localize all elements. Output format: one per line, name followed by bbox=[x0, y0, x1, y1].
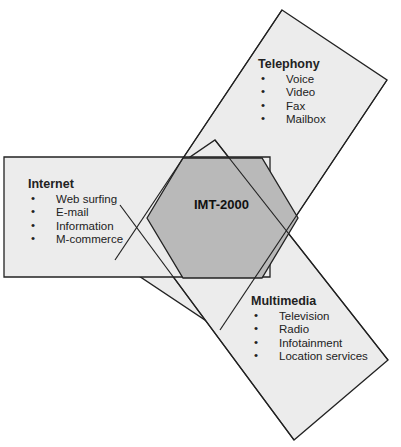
list-item: •Video bbox=[258, 86, 326, 100]
telephony-title: Telephony bbox=[258, 58, 326, 72]
bullet-icon: • bbox=[254, 309, 258, 323]
internet-list: •Web surfing •E-mail •Information •M-com… bbox=[28, 193, 123, 247]
multimedia-list: •Television •Radio •Infotainment •Locati… bbox=[251, 310, 368, 364]
list-item: •Radio bbox=[251, 323, 368, 337]
list-item: •Television bbox=[251, 310, 368, 324]
list-item: •Mailbox bbox=[258, 113, 326, 127]
bullet-icon: • bbox=[31, 219, 35, 233]
list-item: •Information bbox=[28, 220, 123, 234]
list-item: •Infotainment bbox=[251, 337, 368, 351]
bullet-icon: • bbox=[261, 72, 265, 86]
telephony-group: Telephony •Voice •Video •Fax •Mailbox bbox=[258, 58, 326, 127]
internet-title: Internet bbox=[28, 178, 123, 192]
bullet-icon: • bbox=[261, 85, 265, 99]
internet-group: Internet •Web surfing •E-mail •Informati… bbox=[28, 178, 123, 247]
list-item: •Web surfing bbox=[28, 193, 123, 207]
bullet-icon: • bbox=[254, 336, 258, 350]
list-item: •E-mail bbox=[28, 206, 123, 220]
multimedia-title: Multimedia bbox=[251, 295, 368, 309]
multimedia-group: Multimedia •Television •Radio •Infotainm… bbox=[251, 295, 368, 364]
bullet-icon: • bbox=[261, 99, 265, 113]
bullet-icon: • bbox=[254, 349, 258, 363]
list-item: •M-commerce bbox=[28, 233, 123, 247]
list-item: •Location services bbox=[251, 350, 368, 364]
bullet-icon: • bbox=[31, 205, 35, 219]
list-item: •Fax bbox=[258, 100, 326, 114]
bullet-icon: • bbox=[31, 192, 35, 206]
bullet-icon: • bbox=[254, 322, 258, 336]
list-item: •Voice bbox=[258, 73, 326, 87]
bullet-icon: • bbox=[261, 112, 265, 126]
telephony-list: •Voice •Video •Fax •Mailbox bbox=[258, 73, 326, 127]
center-label: IMT-2000 bbox=[194, 197, 249, 212]
bullet-icon: • bbox=[31, 232, 35, 246]
